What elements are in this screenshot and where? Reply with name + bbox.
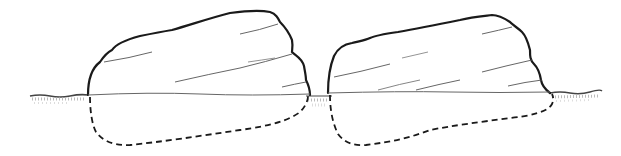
- left-boulder: [88, 11, 310, 145]
- ground-left: [30, 95, 88, 103]
- right-boulder: [328, 15, 553, 145]
- boulders-drawing: [0, 0, 621, 156]
- boulder-illustration: [0, 0, 621, 156]
- ground-right: [550, 90, 602, 101]
- ground-middle: [306, 96, 332, 105]
